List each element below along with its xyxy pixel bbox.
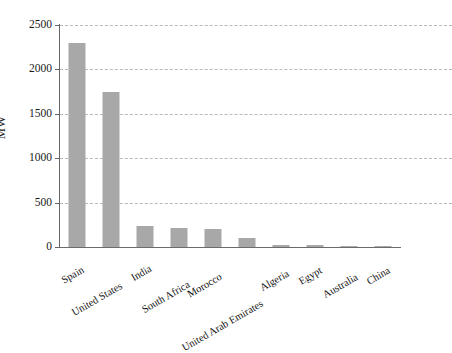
y-tick-label: 2000 — [12, 63, 52, 75]
x-tick-label: Algeria — [258, 268, 291, 293]
bar-slot — [264, 25, 298, 247]
y-tick-mark — [55, 203, 59, 204]
bar[interactable] — [69, 43, 86, 247]
y-tick-mark — [55, 114, 59, 115]
x-tick-label: China — [365, 265, 392, 287]
bar[interactable] — [375, 246, 392, 247]
x-tick-label: United States — [70, 280, 124, 318]
y-tick-label: 2500 — [12, 19, 52, 31]
y-tick-mark — [55, 247, 59, 248]
bar-slot — [128, 25, 162, 247]
y-tick-label: 500 — [12, 197, 52, 209]
x-tick-label: Australia — [321, 271, 360, 300]
bar[interactable] — [171, 228, 188, 247]
x-tick-label: South Africa — [140, 279, 192, 315]
bar-slot — [298, 25, 332, 247]
bar[interactable] — [137, 226, 154, 247]
y-tick-mark — [55, 69, 59, 70]
y-tick-mark — [55, 158, 59, 159]
y-tick-label: 0 — [12, 241, 52, 253]
x-tick-label: India — [129, 263, 153, 283]
bar-slot — [230, 25, 264, 247]
x-tick-label: United Arab Emirates — [180, 298, 265, 353]
x-tick-label: Morocco — [185, 271, 223, 299]
bar[interactable] — [341, 246, 358, 247]
x-tick-label: Spain — [59, 264, 85, 285]
x-axis-labels-group: SpainUnited StatesIndiaSouth AfricaMoroc… — [60, 249, 400, 345]
bar-slot — [94, 25, 128, 247]
bar-slot — [332, 25, 366, 247]
bar-slot — [162, 25, 196, 247]
y-tick-label: 1000 — [12, 152, 52, 164]
y-axis-title: MW — [0, 116, 9, 140]
bar[interactable] — [205, 229, 222, 247]
bar-slot — [366, 25, 400, 247]
bar[interactable] — [103, 92, 120, 247]
bar[interactable] — [307, 245, 324, 247]
bar-slot — [60, 25, 94, 247]
x-axis-spine — [59, 247, 401, 248]
bar-slot — [196, 25, 230, 247]
y-tick-label: 1500 — [12, 108, 52, 120]
bars-group — [60, 25, 400, 247]
bar[interactable] — [239, 238, 256, 247]
x-tick-label: Egypt — [297, 265, 324, 287]
y-tick-mark — [55, 25, 59, 26]
bar[interactable] — [273, 245, 290, 247]
